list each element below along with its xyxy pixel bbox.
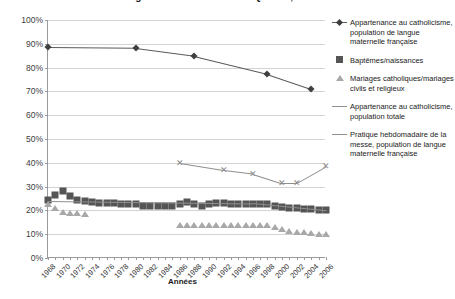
x-axis-tick-mark — [92, 257, 93, 260]
x-axis-tick-label: 2006 — [317, 262, 335, 280]
x-axis-tick-mark — [48, 257, 49, 260]
data-point-square — [66, 193, 73, 200]
data-point-square — [227, 201, 234, 208]
y-axis-tick-mark — [45, 187, 48, 188]
legend-marker-diamond-line-icon — [332, 21, 347, 24]
x-axis-tick-mark — [55, 257, 56, 260]
series-line-segment — [180, 163, 224, 171]
y-axis-tick-label: 100% — [21, 15, 43, 25]
x-axis-tick-mark — [114, 257, 115, 260]
y-axis-tick-label: 80% — [26, 63, 43, 73]
x-axis-tick-mark — [180, 257, 181, 260]
x-axis-tick-mark — [202, 257, 203, 260]
x-axis-tick-mark — [172, 257, 173, 260]
x-axis-tick-mark — [289, 257, 290, 260]
x-axis-tick-label: 2000 — [273, 262, 291, 280]
x-axis-tick-label: 1972 — [68, 262, 86, 280]
y-axis-tick-label: 60% — [26, 110, 43, 120]
x-axis-tick-mark — [297, 257, 298, 260]
y-axis-tick-label: 30% — [26, 182, 43, 192]
chart-legend: Appartenance au catholicisme, population… — [332, 18, 454, 168]
series-line-segment — [136, 48, 195, 57]
gridline — [48, 234, 325, 235]
y-axis-tick-label: 70% — [26, 86, 43, 96]
x-axis-tick-label: 1968 — [39, 262, 57, 280]
x-axis-tick-mark — [311, 257, 312, 260]
data-point-square — [242, 201, 249, 208]
legend-marker-square-icon — [332, 59, 347, 62]
x-axis-tick-mark — [224, 257, 225, 260]
series-line-segment — [48, 47, 136, 49]
y-axis-tick-mark — [45, 210, 48, 211]
x-axis-tick-mark — [143, 257, 144, 260]
legend-item[interactable]: Appartenance au catholicisme, population… — [332, 18, 454, 47]
x-axis-tick-mark — [260, 257, 261, 260]
gridline — [48, 115, 325, 116]
legend-item[interactable]: Pratique hebdomadaire de la messe, popul… — [332, 130, 454, 159]
gridline — [48, 20, 325, 21]
x-axis-tick-mark — [326, 257, 327, 260]
x-axis-tick-mark — [282, 257, 283, 260]
data-point-triangle — [322, 231, 330, 237]
data-point-square — [52, 191, 59, 198]
y-axis-tick-mark — [45, 91, 48, 92]
gridline — [48, 91, 325, 92]
legend-item[interactable]: Baptêmes/naissances — [332, 56, 454, 66]
chart-container: Figure 1 : Catholicisme au Québec, 1968-… — [0, 0, 455, 299]
x-axis-tick-mark — [304, 257, 305, 260]
y-axis-tick-mark — [45, 68, 48, 69]
x-axis-tick-mark — [231, 257, 232, 260]
x-axis-tick-label: 1978 — [112, 262, 130, 280]
x-axis-tick-mark — [158, 257, 159, 260]
y-axis-tick-mark — [45, 163, 48, 164]
x-axis-tick-mark — [150, 257, 151, 260]
gridline — [48, 44, 325, 45]
x-axis-tick-label: 1974 — [83, 262, 101, 280]
gridline — [48, 139, 325, 140]
x-axis-tick-mark — [121, 257, 122, 260]
x-axis-tick-mark — [77, 257, 78, 260]
data-point-triangle — [81, 211, 89, 217]
data-point-x: ✕ — [249, 169, 257, 178]
series-line-segment — [194, 56, 267, 75]
data-point-x: ✕ — [176, 158, 184, 167]
legend-item[interactable]: Mariages catholiques/mariages civils et … — [332, 74, 454, 93]
legend-label: Appartenance au catholicisme, population… — [350, 102, 453, 121]
x-axis-tick-mark — [165, 257, 166, 260]
x-axis-tick-mark — [187, 257, 188, 260]
data-point-square — [59, 188, 66, 195]
y-axis-tick-label: 20% — [26, 205, 43, 215]
x-axis-tick-mark — [194, 257, 195, 260]
series-line-segment — [267, 74, 311, 90]
x-axis-tick-label: 1990 — [200, 262, 218, 280]
x-axis-tick-mark — [216, 257, 217, 260]
x-axis-tick-mark — [238, 257, 239, 260]
data-point-square — [140, 202, 147, 209]
y-axis-tick-mark — [45, 20, 48, 21]
legend-label: Pratique hebdomadaire de la messe, popul… — [350, 130, 446, 158]
y-axis-tick-mark — [45, 234, 48, 235]
y-axis-tick-label: 10% — [26, 229, 43, 239]
x-axis-tick-mark — [253, 257, 254, 260]
x-axis-tick-mark — [246, 257, 247, 260]
legend-label: Baptêmes/naissances — [350, 56, 423, 65]
y-axis-tick-mark — [45, 115, 48, 116]
x-axis-tick-mark — [128, 257, 129, 260]
x-axis-tick-mark — [85, 257, 86, 260]
legend-marker-line-icon — [332, 133, 347, 136]
legend-label: Mariages catholiques/mariages civils et … — [350, 74, 454, 93]
data-point-x: ✕ — [220, 165, 228, 174]
x-axis-tick-mark — [70, 257, 71, 260]
y-axis-tick-label: 0% — [31, 253, 43, 263]
x-axis-tick-mark — [267, 257, 268, 260]
plot-area: 0%10%20%30%40%50%60%70%80%90%100%1968197… — [47, 20, 325, 258]
x-axis-tick-mark — [63, 257, 64, 260]
legend-marker-line-icon — [332, 105, 347, 108]
legend-marker-triangle-icon — [332, 77, 347, 80]
x-axis-title: Années — [168, 277, 197, 286]
legend-item[interactable]: Appartenance au catholicisme, population… — [332, 102, 454, 121]
data-point-diamond — [132, 44, 139, 51]
data-point-square — [235, 201, 242, 208]
data-point-x: ✕ — [293, 179, 301, 188]
y-axis-tick-label: 90% — [26, 39, 43, 49]
